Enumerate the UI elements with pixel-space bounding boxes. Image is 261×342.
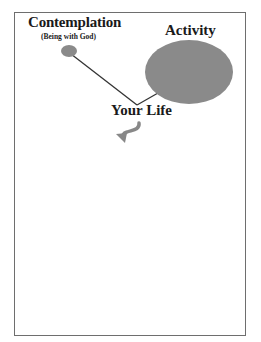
contemplation-node (61, 45, 77, 57)
diagram-canvas (0, 0, 261, 342)
your-life-title: Your Life (111, 102, 172, 119)
contemplation-title: Contemplation (28, 14, 121, 31)
curved-arrow-icon (116, 123, 139, 143)
edge-contemplation-life (71, 54, 137, 105)
activity-node (145, 40, 233, 104)
contemplation-subtitle: (Being with God) (41, 32, 96, 41)
activity-title: Activity (165, 22, 216, 39)
